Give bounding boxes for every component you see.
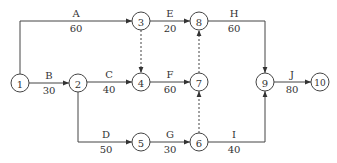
activity-g-duration: 30 bbox=[164, 144, 177, 155]
node-5-label: 5 bbox=[138, 138, 144, 149]
activity-h-duration: 60 bbox=[228, 23, 241, 34]
node-2: 2 bbox=[69, 74, 87, 92]
node-3: 3 bbox=[132, 12, 150, 30]
activity-a-duration: 60 bbox=[70, 23, 83, 34]
activity-c-duration: 40 bbox=[103, 84, 116, 95]
network-diagram: A 60 B 30 C 40 D 50 E 20 F 60 G 30 H 60 … bbox=[0, 0, 337, 163]
node-9-label: 9 bbox=[262, 78, 268, 89]
activity-d-name: D bbox=[102, 129, 110, 140]
activity-e-name: E bbox=[166, 8, 173, 19]
edge-i bbox=[208, 91, 265, 142]
activity-f-name: F bbox=[167, 69, 174, 80]
node-1-label: 1 bbox=[17, 79, 23, 90]
node-3-label: 3 bbox=[138, 17, 144, 28]
activity-i-name: I bbox=[232, 129, 236, 140]
activity-i-duration: 40 bbox=[228, 144, 241, 155]
node-10-label: 10 bbox=[314, 78, 326, 88]
node-7: 7 bbox=[190, 73, 208, 91]
node-10: 10 bbox=[311, 73, 329, 91]
activity-b-name: B bbox=[45, 70, 52, 81]
node-8: 8 bbox=[190, 12, 208, 30]
node-5: 5 bbox=[132, 133, 150, 151]
activity-c-name: C bbox=[105, 69, 113, 80]
node-7-label: 7 bbox=[196, 78, 202, 89]
activity-f-duration: 60 bbox=[164, 84, 177, 95]
node-6: 6 bbox=[190, 133, 208, 151]
node-4: 4 bbox=[132, 73, 150, 91]
activity-j-name: J bbox=[289, 69, 294, 80]
activity-d-duration: 50 bbox=[100, 144, 113, 155]
node-2-label: 2 bbox=[75, 79, 81, 90]
activity-g-name: G bbox=[166, 129, 174, 140]
activity-a-name: A bbox=[71, 8, 80, 19]
node-9: 9 bbox=[256, 73, 274, 91]
node-1: 1 bbox=[11, 74, 29, 92]
activity-b-duration: 30 bbox=[43, 85, 56, 96]
node-8-label: 8 bbox=[196, 17, 202, 28]
activity-e-duration: 20 bbox=[164, 23, 177, 34]
node-6-label: 6 bbox=[196, 138, 202, 149]
activity-h-name: H bbox=[230, 8, 239, 19]
activity-j-duration: 80 bbox=[286, 84, 299, 95]
node-4-label: 4 bbox=[138, 78, 144, 89]
